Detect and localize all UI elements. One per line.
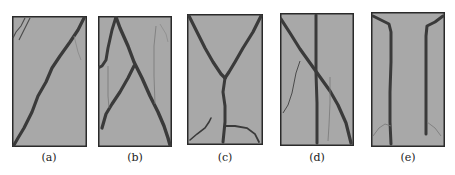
panel-label-b: (b) — [105, 151, 165, 164]
crack-pattern-a — [12, 16, 87, 147]
panel-e — [371, 12, 445, 147]
panel-label-a: (a) — [19, 151, 79, 164]
panel-a — [12, 16, 87, 147]
crack-pattern-b — [98, 16, 172, 147]
panel-label-c: (c) — [195, 151, 255, 164]
crack-pattern-d — [280, 13, 354, 146]
crack-pattern-c — [187, 14, 263, 145]
panel-label-e: (e) — [378, 151, 438, 164]
panel-label-d: (d) — [287, 151, 347, 164]
panel-b — [98, 16, 172, 147]
crack-pattern-e — [371, 12, 445, 147]
panel-c — [187, 14, 263, 145]
panel-d — [280, 13, 354, 146]
